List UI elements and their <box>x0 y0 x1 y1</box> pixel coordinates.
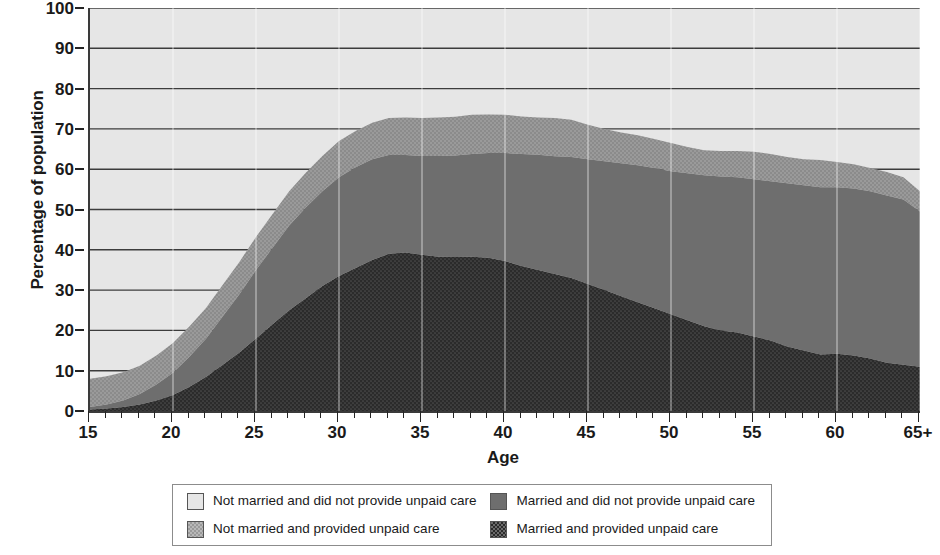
x-tick-mark-major <box>503 411 504 422</box>
x-tick-mark-minor <box>818 411 819 418</box>
x-tick-label: 15 <box>79 423 98 443</box>
x-tick-label: 65+ <box>904 423 933 443</box>
x-axis-ticks: 1520253035404550556065+ <box>88 411 920 431</box>
x-tick-mark-minor <box>470 411 471 418</box>
x-tick-mark-minor <box>719 411 720 418</box>
x-tick-label: 35 <box>411 423 430 443</box>
y-tick-label: 100 <box>46 0 74 17</box>
legend-swatch <box>490 493 507 510</box>
x-tick-mark-major <box>918 411 919 422</box>
x-tick-mark-minor <box>901 411 902 418</box>
x-tick-mark-minor <box>735 411 736 418</box>
x-tick-mark-minor <box>686 411 687 418</box>
x-tick-mark-minor <box>271 411 272 418</box>
x-tick-mark-major <box>586 411 587 422</box>
x-tick-mark-minor <box>370 411 371 418</box>
y-tick-label: 60 <box>55 161 74 178</box>
legend-item[interactable]: Not married and did not provide unpaid c… <box>173 493 476 510</box>
x-tick-label: 25 <box>245 423 264 443</box>
y-tick-mark <box>75 410 84 412</box>
legend-item[interactable]: Married and provided unpaid care <box>476 521 771 538</box>
legend-swatch <box>187 521 204 538</box>
x-tick-mark-minor <box>868 411 869 418</box>
legend-swatch <box>187 493 204 510</box>
y-tick-mark <box>75 88 84 90</box>
x-tick-mark-minor <box>237 411 238 418</box>
x-tick-mark-minor <box>569 411 570 418</box>
y-tick-label: 80 <box>55 80 74 97</box>
x-tick-mark-minor <box>603 411 604 418</box>
y-tick-mark <box>75 128 84 130</box>
x-tick-label: 55 <box>743 423 762 443</box>
x-tick-label: 30 <box>328 423 347 443</box>
x-tick-mark-minor <box>121 411 122 418</box>
x-tick-mark-major <box>420 411 421 422</box>
y-tick-mark <box>75 329 84 331</box>
x-axis-title: Age <box>88 448 918 468</box>
y-tick-label: 10 <box>55 362 74 379</box>
x-tick-mark-minor <box>304 411 305 418</box>
y-tick-mark <box>75 7 84 9</box>
x-tick-mark-minor <box>619 411 620 418</box>
y-tick-label: 90 <box>55 40 74 57</box>
x-tick-mark-minor <box>221 411 222 418</box>
x-tick-label: 50 <box>660 423 679 443</box>
x-tick-mark-minor <box>437 411 438 418</box>
y-tick-label: 40 <box>55 241 74 258</box>
x-tick-mark-minor <box>287 411 288 418</box>
x-tick-mark-minor <box>387 411 388 418</box>
x-tick-mark-minor <box>204 411 205 418</box>
x-tick-mark-minor <box>536 411 537 418</box>
x-tick-mark-minor <box>885 411 886 418</box>
legend-label: Not married and did not provide unpaid c… <box>213 494 476 509</box>
x-tick-mark-minor <box>785 411 786 418</box>
x-tick-mark-minor <box>138 411 139 418</box>
x-tick-mark-minor <box>403 411 404 418</box>
x-tick-mark-minor <box>354 411 355 418</box>
legend-item[interactable]: Not married and provided unpaid care <box>173 521 476 538</box>
y-tick-label: 50 <box>55 201 74 218</box>
x-tick-label: 20 <box>162 423 181 443</box>
stacked-area-svg <box>90 8 920 411</box>
x-tick-mark-minor <box>553 411 554 418</box>
x-tick-mark-major <box>254 411 255 422</box>
y-tick-mark <box>75 370 84 372</box>
y-tick-mark <box>75 47 84 49</box>
x-tick-mark-major <box>171 411 172 422</box>
x-tick-mark-minor <box>702 411 703 418</box>
x-tick-mark-major <box>752 411 753 422</box>
x-tick-label: 40 <box>494 423 513 443</box>
x-tick-mark-minor <box>320 411 321 418</box>
y-tick-mark <box>75 249 84 251</box>
legend-label: Married and provided unpaid care <box>516 522 718 537</box>
legend-swatch <box>490 521 507 538</box>
x-tick-mark-major <box>835 411 836 422</box>
y-tick-mark <box>75 168 84 170</box>
y-tick-label: 30 <box>55 282 74 299</box>
x-tick-mark-major <box>88 411 89 422</box>
x-tick-mark-minor <box>802 411 803 418</box>
plot-area <box>88 8 920 413</box>
x-tick-mark-minor <box>636 411 637 418</box>
legend-item[interactable]: Married and did not provide unpaid care <box>476 493 771 510</box>
x-tick-mark-minor <box>453 411 454 418</box>
y-tick-label: 70 <box>55 120 74 137</box>
x-tick-mark-minor <box>188 411 189 418</box>
x-tick-mark-minor <box>520 411 521 418</box>
x-tick-label: 60 <box>826 423 845 443</box>
x-tick-mark-minor <box>486 411 487 418</box>
x-tick-mark-minor <box>769 411 770 418</box>
legend-label: Married and did not provide unpaid care <box>516 494 755 509</box>
x-tick-mark-minor <box>652 411 653 418</box>
x-tick-mark-major <box>337 411 338 422</box>
y-tick-mark <box>75 289 84 291</box>
y-tick-label: 0 <box>65 403 74 420</box>
x-tick-label: 45 <box>577 423 596 443</box>
chart-legend: Not married and did not provide unpaid c… <box>172 484 772 546</box>
y-tick-mark <box>75 209 84 211</box>
legend-label: Not married and provided unpaid care <box>213 522 440 537</box>
x-tick-mark-minor <box>852 411 853 418</box>
x-tick-mark-minor <box>105 411 106 418</box>
x-tick-mark-minor <box>154 411 155 418</box>
x-tick-mark-major <box>669 411 670 422</box>
